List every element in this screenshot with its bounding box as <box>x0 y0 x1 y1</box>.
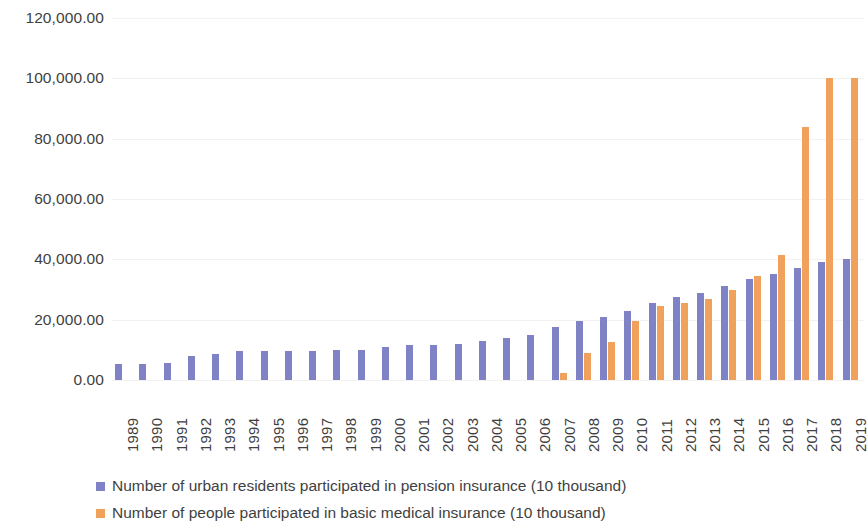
bar-medical <box>802 127 809 380</box>
bar-pension <box>212 354 219 380</box>
bar-pension <box>309 351 316 380</box>
medical-swatch-icon <box>96 509 105 518</box>
bar-pension <box>527 335 534 380</box>
x-tick-label: 2017 <box>804 382 819 452</box>
y-tick-label: 60,000.00 <box>0 191 104 207</box>
bar-medical <box>754 276 761 380</box>
x-tick-label: 1994 <box>246 382 261 452</box>
bar-group <box>406 10 430 380</box>
bar-pension <box>770 274 777 380</box>
bar-medical <box>826 78 833 380</box>
bar-pension <box>673 297 680 380</box>
bar-pension <box>503 338 510 380</box>
x-tick-label: 1990 <box>149 382 164 452</box>
bar-group <box>261 10 285 380</box>
y-axis: 120,000.00100,000.0080,000.0060,000.0040… <box>0 0 104 400</box>
bar-medical <box>608 342 615 380</box>
x-tick-label: 1995 <box>271 382 286 452</box>
x-tick-label: 1997 <box>319 382 334 452</box>
bar-group <box>697 10 721 380</box>
bar-pension <box>576 321 583 380</box>
bar-medical <box>778 255 785 380</box>
bar-pension <box>358 350 365 380</box>
bar-group <box>673 10 697 380</box>
bar-group <box>843 10 867 380</box>
legend-item-pension: Number of urban residents participated i… <box>96 474 856 498</box>
bar-medical <box>560 373 567 380</box>
legend-label-pension: Number of urban residents participated i… <box>112 477 626 495</box>
bar-pension <box>382 347 389 380</box>
bar-pension <box>794 268 801 380</box>
bar-group <box>139 10 163 380</box>
x-tick-label: 2016 <box>780 382 795 452</box>
bar-medical <box>729 290 736 381</box>
x-tick-label: 2008 <box>586 382 601 452</box>
bar-pension <box>479 341 486 380</box>
bar-group <box>552 10 576 380</box>
bar-pension <box>697 293 704 380</box>
bar-group <box>600 10 624 380</box>
x-tick-label: 1992 <box>198 382 213 452</box>
bar-pension <box>333 350 340 380</box>
bar-group <box>455 10 479 380</box>
legend-label-medical: Number of people participated in basic m… <box>112 504 606 522</box>
bar-medical <box>851 78 858 380</box>
x-tick-label: 1998 <box>343 382 358 452</box>
bar-pension <box>600 317 607 380</box>
bar-group <box>479 10 503 380</box>
bar-group <box>721 10 745 380</box>
bar-group <box>309 10 333 380</box>
x-tick-label: 2011 <box>659 382 674 452</box>
x-tick-label: 2009 <box>610 382 625 452</box>
x-tick-label: 2013 <box>707 382 722 452</box>
bar-pension <box>721 286 728 380</box>
x-tick-label: 2003 <box>465 382 480 452</box>
x-tick-label: 1999 <box>368 382 383 452</box>
y-tick-label: 0.00 <box>0 372 104 388</box>
bar-group <box>285 10 309 380</box>
bar-pension <box>261 351 268 380</box>
y-tick-label: 100,000.00 <box>0 70 104 86</box>
bar-pension <box>746 279 753 380</box>
x-tick-label: 2015 <box>756 382 771 452</box>
bar-pension <box>164 363 171 380</box>
bar-pension <box>818 262 825 380</box>
bar-group <box>649 10 673 380</box>
pension-swatch-icon <box>96 482 105 491</box>
x-tick-label: 1993 <box>222 382 237 452</box>
bar-group <box>527 10 551 380</box>
x-tick-label: 1989 <box>125 382 140 452</box>
x-tick-label: 2004 <box>489 382 504 452</box>
bar-pension <box>115 364 122 380</box>
x-tick-label: 2006 <box>537 382 552 452</box>
bar-group <box>358 10 382 380</box>
bar-group <box>430 10 454 380</box>
bar-group <box>770 10 794 380</box>
bar-medical <box>584 353 591 380</box>
bar-group <box>164 10 188 380</box>
y-tick-label: 40,000.00 <box>0 251 104 267</box>
y-tick-label: 20,000.00 <box>0 312 104 328</box>
bar-group <box>818 10 842 380</box>
bar-pension <box>406 345 413 380</box>
bar-pension <box>285 351 292 380</box>
bar-group <box>236 10 260 380</box>
bar-group <box>624 10 648 380</box>
x-tick-label: 2002 <box>440 382 455 452</box>
bar-group <box>746 10 770 380</box>
bar-group <box>188 10 212 380</box>
bar-group <box>212 10 236 380</box>
bar-group <box>333 10 357 380</box>
x-tick-label: 2007 <box>562 382 577 452</box>
bar-pension <box>455 344 462 380</box>
x-tick-label: 2010 <box>634 382 649 452</box>
bar-group <box>115 10 139 380</box>
gridline <box>112 380 864 381</box>
bar-pension <box>649 303 656 380</box>
x-tick-label: 2005 <box>513 382 528 452</box>
y-tick-label: 80,000.00 <box>0 131 104 147</box>
legend-item-medical: Number of people participated in basic m… <box>96 501 856 525</box>
bar-pension <box>843 259 850 380</box>
bar-pension <box>236 351 243 380</box>
x-axis: 1989199019911992199319941995199619971998… <box>112 382 864 460</box>
